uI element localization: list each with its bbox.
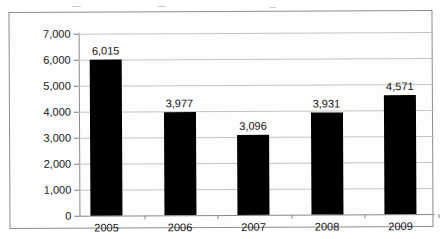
x-category-label-2009: 2009 (370, 220, 430, 232)
scan-artifact-speckle (270, 7, 276, 8)
y-tick-label: 3,000 (44, 133, 72, 144)
bar-2007 (237, 134, 269, 215)
bar-2005 (90, 59, 123, 216)
y-tick-label: 7,000 (43, 29, 71, 40)
bar-chart-figure: 7,0006,0005,0004,0003,0002,0001,0000 6,0… (0, 0, 447, 239)
bar-2009 (384, 95, 417, 214)
x-category-label-2008: 2008 (297, 220, 357, 232)
plot-area: 6,0153,9773,0963,9314,571 (79, 32, 435, 216)
gridline (79, 58, 434, 61)
bar-value-label: 3,096 (223, 120, 283, 131)
x-axis-category-labels: 20052006200720082009 (9, 11, 431, 13)
x-category-label-2007: 2007 (223, 221, 283, 233)
y-axis-tick-marks (9, 11, 431, 13)
x-axis-tick-marks (9, 11, 431, 13)
bar-value-label: 3,931 (296, 98, 356, 109)
bar-value-label: 4,571 (370, 81, 430, 92)
bar-value-label: 3,977 (149, 98, 209, 109)
scan-artifact-speckle (158, 6, 166, 7)
y-tick-label: 0 (65, 211, 71, 222)
gridline (79, 110, 434, 113)
x-tick-mark (438, 214, 439, 218)
y-axis-tick-labels: 7,0006,0005,0004,0003,0002,0001,0000 (9, 13, 71, 228)
scan-artifact-speckle (72, 6, 81, 7)
y-tick-label: 1,000 (44, 185, 72, 196)
y-tick-label: 6,000 (43, 55, 71, 66)
bar-value-label: 6,015 (76, 45, 136, 56)
chart-frame: 7,0006,0005,0004,0003,0002,0001,0000 6,0… (8, 10, 433, 229)
bar-2008 (310, 112, 342, 214)
x-category-label-2005: 2005 (76, 221, 136, 233)
gridline (79, 32, 434, 35)
y-tick-label: 4,000 (43, 107, 71, 118)
bar-2006 (163, 112, 196, 216)
y-tick-label: 2,000 (44, 159, 72, 170)
y-tick-label: 5,000 (43, 81, 71, 92)
x-category-label-2006: 2006 (150, 221, 210, 233)
gridlines (79, 32, 434, 34)
